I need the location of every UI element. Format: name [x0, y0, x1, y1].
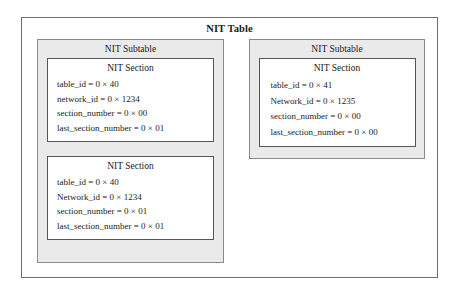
field-last-section-number: last_section_number = 0 × 00: [271, 125, 415, 141]
field-table-id: table_id = 0 × 41: [271, 78, 415, 94]
field-last-section-number: last_section_number = 0 × 01: [57, 121, 213, 136]
nit-section-right-1-fields: table_id = 0 × 41 Network_id = 0 × 1235 …: [260, 74, 415, 140]
nit-section-right-1-title: NIT Section: [260, 59, 415, 74]
field-table-id: table_id = 0 × 40: [57, 175, 213, 190]
field-network-id: Network_id = 0 × 1234: [57, 190, 213, 205]
nit-subtable-left: NIT Subtable NIT Section table_id = 0 × …: [37, 39, 224, 263]
nit-table-title: NIT Table: [22, 18, 437, 35]
nit-section-left-1-fields: table_id = 0 × 40 network_id = 0 × 1234 …: [48, 74, 213, 135]
nit-subtable-right-title: NIT Subtable: [250, 40, 424, 58]
nit-section-left-1-title: NIT Section: [48, 59, 213, 74]
field-last-section-number: last_section_number = 0 × 01: [57, 219, 213, 234]
field-section-number: section_number = 0 × 00: [271, 109, 415, 125]
field-network-id: network_id = 0 × 1234: [57, 92, 213, 107]
nit-section-right-1: NIT Section table_id = 0 × 41 Network_id…: [259, 58, 416, 147]
subtable-row: NIT Subtable NIT Section table_id = 0 × …: [22, 39, 437, 279]
field-table-id: table_id = 0 × 40: [57, 77, 213, 92]
nit-subtable-left-title: NIT Subtable: [38, 40, 223, 58]
nit-section-left-1: NIT Section table_id = 0 × 40 network_id…: [47, 58, 214, 142]
nit-section-left-2-title: NIT Section: [48, 157, 213, 172]
field-section-number: section_number = 0 × 00: [57, 106, 213, 121]
nit-section-left-2-fields: table_id = 0 × 40 Network_id = 0 × 1234 …: [48, 172, 213, 233]
nit-section-left-2: NIT Section table_id = 0 × 40 Network_id…: [47, 156, 214, 240]
field-section-number: section_number = 0 × 01: [57, 204, 213, 219]
nit-subtable-right: NIT Subtable NIT Section table_id = 0 × …: [249, 39, 425, 159]
field-network-id: Network_id = 0 × 1235: [271, 94, 415, 110]
nit-table-container: NIT Table NIT Subtable NIT Section table…: [21, 17, 438, 278]
